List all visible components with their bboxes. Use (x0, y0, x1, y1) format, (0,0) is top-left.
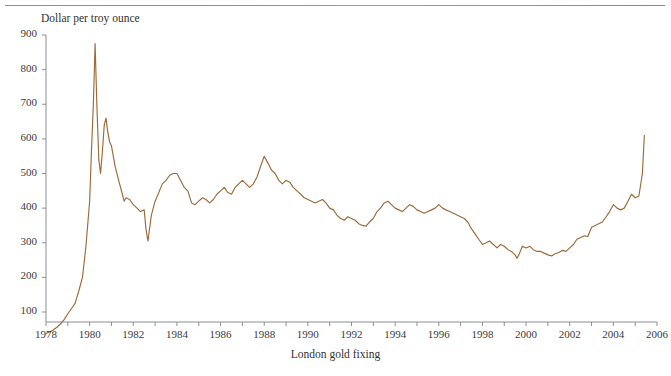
figure-container: FIGURE 2-5 Dollar per troy ounce 1002003… (0, 0, 671, 376)
x-axis-tick-label: 1982 (122, 328, 144, 340)
y-axis-tick-label: 400 (7, 200, 37, 212)
x-axis-tick-label: 2002 (559, 328, 581, 340)
y-axis-tick-label: 800 (7, 62, 37, 74)
x-axis-tick-label: 1984 (166, 328, 188, 340)
chart-caption: London gold fixing (0, 348, 671, 360)
x-axis-tick-label: 1978 (35, 328, 57, 340)
y-axis-tick-label: 900 (7, 27, 37, 39)
x-axis-tick-label: 2004 (602, 328, 624, 340)
x-axis-tick-label: 1992 (341, 328, 363, 340)
x-axis-tick-label: 1996 (428, 328, 450, 340)
y-axis-tick-label: 200 (7, 269, 37, 281)
y-axis-tick-label: 100 (7, 304, 37, 316)
x-axis-tick-label: 1980 (79, 328, 101, 340)
x-axis-tick-label: 1990 (297, 328, 319, 340)
y-axis-tick-label: 300 (7, 235, 37, 247)
x-axis-tick-label: 1994 (384, 328, 406, 340)
x-axis-tick-label: 1986 (210, 328, 232, 340)
x-axis-tick-label: 1998 (471, 328, 493, 340)
data-series-line (46, 44, 644, 334)
y-axis-tick-label: 500 (7, 166, 37, 178)
chart-plot-area: 1002003004005006007008009001978198019821… (0, 0, 671, 376)
y-axis-tick-label: 700 (7, 96, 37, 108)
chart-svg (0, 0, 671, 376)
x-axis-tick-label: 2006 (646, 328, 668, 340)
x-axis-tick-label: 2000 (515, 328, 537, 340)
y-axis-tick-label: 600 (7, 131, 37, 143)
x-axis-tick-label: 1988 (253, 328, 275, 340)
